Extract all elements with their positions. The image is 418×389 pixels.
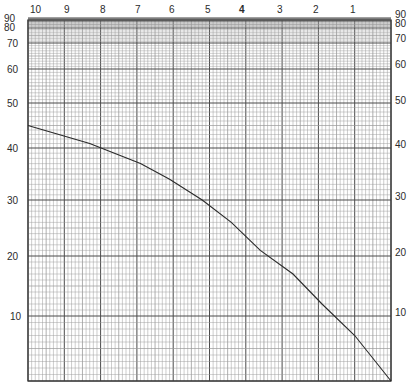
top-tick-label: 5 <box>205 4 211 15</box>
top-tick-label: 4 <box>239 4 245 15</box>
left-tick-label: 10 <box>10 311 22 322</box>
left-tick-label: 70 <box>7 38 19 49</box>
top-tick-label: 7 <box>135 4 141 15</box>
left-tick-label: 60 <box>7 64 19 75</box>
top-tick-label: 3 <box>277 4 283 15</box>
chart-grid <box>28 18 391 381</box>
left-tick-label: 40 <box>7 143 19 154</box>
top-tick-label: 10 <box>30 4 42 15</box>
right-axis: 90 80 70 60 50 40 30 20 10 <box>395 9 407 318</box>
right-tick-label: 50 <box>395 95 407 106</box>
right-tick-label: 10 <box>395 307 407 318</box>
right-tick-label: 30 <box>395 191 407 202</box>
top-tick-label: 2 <box>313 4 319 15</box>
top-tick-label: 8 <box>100 4 106 15</box>
left-tick-label: 80 <box>4 22 16 33</box>
left-tick-label: 50 <box>7 98 19 109</box>
left-tick-label: 30 <box>7 195 19 206</box>
top-tick-label: 9 <box>64 4 70 15</box>
right-tick-label: 20 <box>395 247 407 258</box>
right-tick-label: 80 <box>395 18 407 29</box>
right-tick-label: 60 <box>395 59 407 70</box>
semilog-chart: 10 9 8 7 6 5 4 3 2 1 90 80 70 60 50 40 3… <box>0 0 418 389</box>
top-tick-label: 6 <box>169 4 175 15</box>
left-tick-label: 20 <box>7 251 19 262</box>
right-tick-label: 70 <box>395 33 407 44</box>
left-axis: 90 80 70 60 50 40 30 20 10 <box>4 13 22 322</box>
top-tick-label: 1 <box>350 4 356 15</box>
right-tick-label: 40 <box>395 139 407 150</box>
top-axis: 10 9 8 7 6 5 4 3 2 1 <box>30 4 356 15</box>
